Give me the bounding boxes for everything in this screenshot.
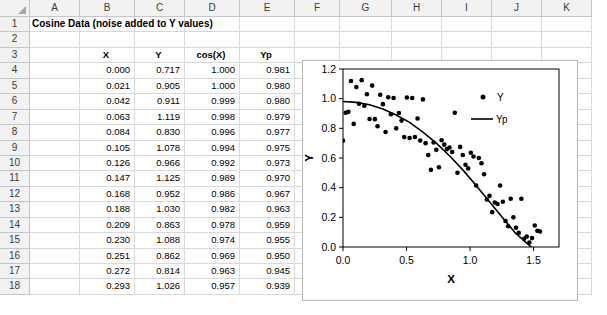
cell-h2[interactable] (392, 32, 442, 47)
cell-b7-x[interactable]: 0.063 (80, 110, 135, 125)
row-header-17[interactable]: 17 (0, 264, 30, 279)
cell-c6-y[interactable]: 0.911 (135, 94, 185, 109)
cell-e14-yp[interactable]: 0.959 (240, 218, 295, 233)
column-header-d[interactable]: D (185, 0, 240, 17)
cell-b2[interactable] (80, 32, 135, 47)
cell-d7-cosx[interactable]: 0.998 (185, 110, 240, 125)
row-header-6[interactable]: 6 (0, 94, 30, 109)
cell-c14-y[interactable]: 0.863 (135, 218, 185, 233)
embedded-chart[interactable]: 0.00.20.40.60.81.01.20.00.51.01.5XYYYp (302, 60, 578, 301)
row-header-15[interactable]: 15 (0, 233, 30, 248)
cell-b18-x[interactable]: 0.293 (80, 279, 135, 294)
cell-j2[interactable] (492, 32, 542, 47)
cell-b12-x[interactable]: 0.168 (80, 187, 135, 202)
row-header-8[interactable]: 8 (0, 125, 30, 140)
cell-c15-y[interactable]: 1.088 (135, 233, 185, 248)
cell-e9-yp[interactable]: 0.975 (240, 141, 295, 156)
cell-a8[interactable] (30, 125, 80, 140)
cell-a1-title[interactable]: Cosine Data (noise added to Y values) (30, 17, 80, 32)
cell-e11-yp[interactable]: 0.970 (240, 171, 295, 186)
cell-g2[interactable] (340, 32, 392, 47)
cell-b16-x[interactable]: 0.251 (80, 249, 135, 264)
cell-c13-y[interactable]: 1.030 (135, 202, 185, 217)
cell-c12-y[interactable]: 0.952 (135, 187, 185, 202)
cell-e13-yp[interactable]: 0.963 (240, 202, 295, 217)
cell-d12-cosx[interactable]: 0.986 (185, 187, 240, 202)
cell-e6-yp[interactable]: 0.980 (240, 94, 295, 109)
cell-b4-x[interactable]: 0.000 (80, 63, 135, 78)
column-header-e[interactable]: E (240, 0, 295, 17)
cell-h1[interactable] (392, 17, 442, 32)
cell-e17-yp[interactable]: 0.945 (240, 264, 295, 279)
column-header-i[interactable]: I (442, 0, 492, 17)
column-header-a[interactable]: A (30, 0, 80, 17)
cell-a5[interactable] (30, 79, 80, 94)
cell-b10-x[interactable]: 0.126 (80, 156, 135, 171)
cell-e5-yp[interactable]: 0.980 (240, 79, 295, 94)
cell-c8-y[interactable]: 0.830 (135, 125, 185, 140)
cell-f1[interactable] (295, 17, 340, 32)
cell-d16-cosx[interactable]: 0.969 (185, 249, 240, 264)
cell-k1[interactable] (542, 17, 592, 32)
cell-c17-y[interactable]: 0.814 (135, 264, 185, 279)
cell-d4-cosx[interactable]: 1.000 (185, 63, 240, 78)
cell-d5-cosx[interactable]: 1.000 (185, 79, 240, 94)
cell-a6[interactable] (30, 94, 80, 109)
cell-e16-yp[interactable]: 0.950 (240, 249, 295, 264)
row-header-10[interactable]: 10 (0, 156, 30, 171)
cell-d13-cosx[interactable]: 0.982 (185, 202, 240, 217)
column-header-j[interactable]: J (492, 0, 542, 17)
column-header-g[interactable]: G (340, 0, 392, 17)
column-header-f[interactable]: F (295, 0, 340, 17)
cell-i2[interactable] (442, 32, 492, 47)
cell-a15[interactable] (30, 233, 80, 248)
cell-e10-yp[interactable]: 0.973 (240, 156, 295, 171)
column-header-k[interactable]: K (542, 0, 592, 17)
cell-c18-y[interactable]: 1.026 (135, 279, 185, 294)
cell-d14-cosx[interactable]: 0.978 (185, 218, 240, 233)
select-all-corner[interactable] (0, 0, 30, 17)
cell-a18[interactable] (30, 279, 80, 294)
column-header-h[interactable]: H (392, 0, 442, 17)
cell-a7[interactable] (30, 110, 80, 125)
row-header-1[interactable]: 1 (0, 17, 30, 32)
cell-a14[interactable] (30, 218, 80, 233)
cell-f2[interactable] (295, 32, 340, 47)
row-header-16[interactable]: 16 (0, 249, 30, 264)
cell-a10[interactable] (30, 156, 80, 171)
cell-e4-yp[interactable]: 0.981 (240, 63, 295, 78)
cell-b15-x[interactable]: 0.230 (80, 233, 135, 248)
cell-d2[interactable] (185, 32, 240, 47)
column-header-c[interactable]: C (135, 0, 185, 17)
row-header-5[interactable]: 5 (0, 79, 30, 94)
cell-e3-header[interactable]: Yp (240, 48, 295, 63)
cell-d10-cosx[interactable]: 0.992 (185, 156, 240, 171)
cell-d11-cosx[interactable]: 0.989 (185, 171, 240, 186)
cell-b9-x[interactable]: 0.105 (80, 141, 135, 156)
cell-e1[interactable] (240, 17, 295, 32)
row-header-7[interactable]: 7 (0, 110, 30, 125)
cell-d3-header[interactable]: cos(X) (185, 48, 240, 63)
row-header-4[interactable]: 4 (0, 63, 30, 78)
cell-g1[interactable] (340, 17, 392, 32)
cell-a2[interactable] (30, 32, 80, 47)
cell-b8-x[interactable]: 0.084 (80, 125, 135, 140)
cell-c7-y[interactable]: 1.119 (135, 110, 185, 125)
cell-a3[interactable] (30, 48, 80, 63)
cell-d15-cosx[interactable]: 0.974 (185, 233, 240, 248)
cell-e2[interactable] (240, 32, 295, 47)
cell-c5-y[interactable]: 0.905 (135, 79, 185, 94)
row-header-18[interactable]: 18 (0, 279, 30, 294)
cell-a4[interactable] (30, 63, 80, 78)
cell-b17-x[interactable]: 0.272 (80, 264, 135, 279)
cell-a13[interactable] (30, 202, 80, 217)
cell-e15-yp[interactable]: 0.955 (240, 233, 295, 248)
cell-c4-y[interactable]: 0.717 (135, 63, 185, 78)
cell-b5-x[interactable]: 0.021 (80, 79, 135, 94)
cell-e12-yp[interactable]: 0.967 (240, 187, 295, 202)
cell-c3-header[interactable]: Y (135, 48, 185, 63)
row-header-11[interactable]: 11 (0, 171, 30, 186)
cell-d6-cosx[interactable]: 0.999 (185, 94, 240, 109)
cell-j1[interactable] (492, 17, 542, 32)
column-header-b[interactable]: B (80, 0, 135, 17)
